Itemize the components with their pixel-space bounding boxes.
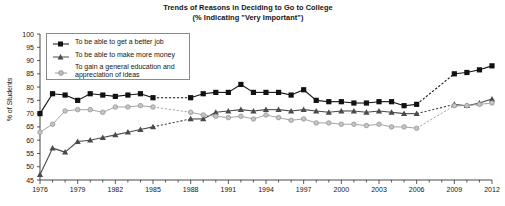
- data-point-marker: [289, 118, 294, 123]
- data-point-marker: [352, 122, 357, 127]
- data-point-marker: [264, 113, 269, 118]
- data-point-marker: [490, 101, 495, 106]
- data-point-marker: [239, 114, 244, 119]
- data-point-marker: [326, 121, 331, 126]
- series-line-dashed: [153, 119, 191, 127]
- data-point-marker: [238, 82, 243, 87]
- data-point-marker: [188, 110, 193, 115]
- series-line: [40, 148, 53, 175]
- data-point-marker: [289, 92, 294, 97]
- data-point-marker: [364, 100, 369, 105]
- data-point-marker: [465, 103, 470, 108]
- data-point-marker: [376, 99, 381, 104]
- data-point-marker: [213, 90, 218, 95]
- data-point-marker: [477, 102, 482, 107]
- data-point-marker: [63, 92, 68, 97]
- data-point-marker: [276, 115, 281, 120]
- data-point-marker: [63, 109, 68, 114]
- series-line: [40, 94, 53, 114]
- legend-label: To gain a general education and apprecia…: [75, 63, 193, 79]
- legend-label: To be able to make more money: [75, 51, 193, 59]
- data-point-marker: [75, 107, 80, 112]
- legend-marker-circle-icon: [53, 69, 69, 77]
- legend-marker-triangle-icon: [53, 53, 69, 61]
- data-point-marker: [37, 111, 42, 116]
- data-point-marker: [150, 95, 155, 100]
- chart-legend: To be able to get a better job To be abl…: [46, 33, 190, 80]
- series-2: [38, 101, 495, 135]
- data-point-marker: [351, 100, 356, 105]
- data-point-marker: [50, 122, 55, 127]
- data-point-marker: [37, 172, 43, 178]
- data-point-marker: [49, 145, 55, 151]
- data-point-marker: [138, 103, 143, 108]
- data-point-marker: [414, 126, 419, 131]
- data-point-marker: [38, 130, 43, 135]
- data-point-marker: [151, 105, 156, 110]
- data-point-marker: [126, 105, 131, 110]
- data-point-marker: [50, 91, 55, 96]
- data-point-marker: [339, 99, 344, 104]
- data-point-marker: [251, 90, 256, 95]
- data-point-marker: [402, 125, 407, 130]
- data-point-marker: [201, 91, 206, 96]
- data-point-marker: [389, 99, 394, 104]
- data-point-marker: [477, 67, 482, 72]
- data-point-marker: [100, 110, 105, 115]
- data-point-marker: [75, 98, 80, 103]
- data-point-marker: [414, 102, 419, 107]
- data-point-marker: [226, 115, 231, 120]
- data-point-marker: [314, 98, 319, 103]
- data-point-marker: [402, 103, 407, 108]
- series-line-dashed: [417, 106, 455, 129]
- data-point-marker: [326, 99, 331, 104]
- data-point-marker: [452, 103, 457, 108]
- series-line-dashed: [153, 107, 191, 112]
- data-point-marker: [226, 90, 231, 95]
- data-point-marker: [201, 113, 206, 118]
- series-line: [53, 111, 66, 124]
- data-point-marker: [188, 95, 193, 100]
- data-point-marker: [113, 94, 118, 99]
- series-1: [37, 96, 495, 177]
- data-point-marker: [301, 107, 307, 113]
- legend-label: To be able to get a better job: [75, 38, 193, 46]
- series-line-dashed: [417, 74, 455, 105]
- data-point-marker: [113, 105, 118, 110]
- data-point-marker: [263, 90, 268, 95]
- data-point-marker: [389, 125, 394, 130]
- data-point-marker: [364, 123, 369, 128]
- data-point-marker: [464, 70, 469, 75]
- data-point-marker: [251, 117, 256, 122]
- data-point-marker: [376, 108, 382, 114]
- data-point-marker: [213, 114, 218, 119]
- data-point-marker: [138, 91, 143, 96]
- data-point-marker: [100, 92, 105, 97]
- data-point-marker: [88, 91, 93, 96]
- data-point-marker: [377, 122, 382, 127]
- data-point-marker: [452, 71, 457, 76]
- data-point-marker: [339, 122, 344, 127]
- data-point-marker: [88, 107, 93, 112]
- data-point-marker: [314, 121, 319, 126]
- data-point-marker: [238, 107, 244, 113]
- legend-marker-square-icon: [53, 40, 69, 48]
- data-point-marker: [301, 87, 306, 92]
- data-point-marker: [489, 63, 494, 68]
- data-point-marker: [276, 90, 281, 95]
- data-point-marker: [125, 92, 130, 97]
- data-point-marker: [301, 117, 306, 122]
